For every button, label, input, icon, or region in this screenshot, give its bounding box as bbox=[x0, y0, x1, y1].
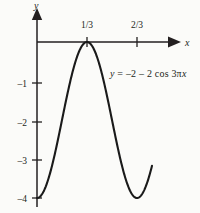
y-tick-label-minus-4: –4 bbox=[17, 194, 28, 204]
equation-annotation: y = –2 – 2 cos 3πx bbox=[110, 68, 187, 79]
y-tick-label-minus-3: –3 bbox=[17, 156, 28, 166]
figure-container: y x 1/3 2/3 –1 –2 –3 –4 y = –2 – 2 cos 3… bbox=[0, 0, 200, 213]
y-axis-label: y bbox=[33, 0, 39, 11]
graph-canvas: y x 1/3 2/3 –1 –2 –3 –4 bbox=[0, 0, 200, 213]
y-tick-label-minus-1: –1 bbox=[17, 79, 28, 89]
x-tick-label-2-3: 2/3 bbox=[131, 20, 143, 30]
x-tick-label-1-3: 1/3 bbox=[81, 20, 93, 30]
x-axis-arrow-icon bbox=[168, 37, 181, 48]
equation-equals: = bbox=[115, 68, 126, 79]
equation-rhs: –2 – 2 cos 3π bbox=[126, 68, 182, 79]
y-tick-label-minus-2: –2 bbox=[17, 118, 28, 128]
cosine-curve bbox=[37, 42, 152, 198]
x-axis-label: x bbox=[184, 37, 190, 48]
equation-rhs-variable: x bbox=[182, 68, 187, 79]
